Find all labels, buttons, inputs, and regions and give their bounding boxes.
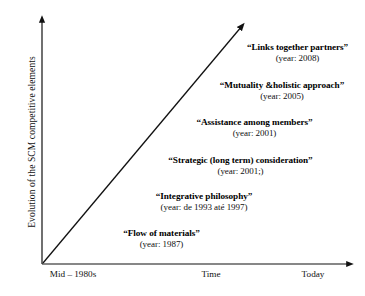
stage-year: (year: 2001) bbox=[177, 128, 332, 139]
stage-title: “Integrative philosophy” bbox=[121, 191, 287, 202]
stage-label-flow-of-materials: “Flow of materials” (year: 1987) bbox=[84, 228, 239, 249]
stage-year: (year: 2001;) bbox=[148, 166, 333, 177]
stage-label-links-together-partners: “Links together partners” (year: 2008) bbox=[230, 42, 365, 63]
stage-year: (year: 2008) bbox=[230, 53, 365, 64]
stage-title: “Links together partners” bbox=[230, 42, 365, 53]
stage-title: “Flow of materials” bbox=[84, 228, 239, 239]
x-axis-label-today: Today bbox=[288, 269, 338, 279]
stage-title: “Mutuality &holistic approach” bbox=[203, 80, 361, 91]
stage-label-integrative-philosophy: “Integrative philosophy” (year: de 1993 … bbox=[121, 191, 287, 212]
stage-year: (year: de 1993 até 1997) bbox=[121, 202, 287, 213]
x-axis-label-start: Mid – 1980s bbox=[33, 269, 113, 279]
stage-label-assistance-among-members: “Assistance among members” (year: 2001) bbox=[177, 117, 332, 138]
stage-label-strategic-long-term-consideration: “Strategic (long term) consideration” (y… bbox=[148, 155, 333, 176]
stage-year: (year: 1987) bbox=[84, 239, 239, 250]
stage-label-mutuality-holistic-approach: “Mutuality &holistic approach” (year: 20… bbox=[203, 80, 361, 101]
stage-title: “Assistance among members” bbox=[177, 117, 332, 128]
scm-evolution-diagram: Evolution of the SCM competitive element… bbox=[0, 0, 365, 296]
stage-year: (year: 2005) bbox=[203, 91, 361, 102]
x-axis-label-time: Time bbox=[186, 269, 236, 279]
y-axis-title: Evolution of the SCM competitive element… bbox=[27, 17, 37, 267]
stage-title: “Strategic (long term) consideration” bbox=[148, 155, 333, 166]
